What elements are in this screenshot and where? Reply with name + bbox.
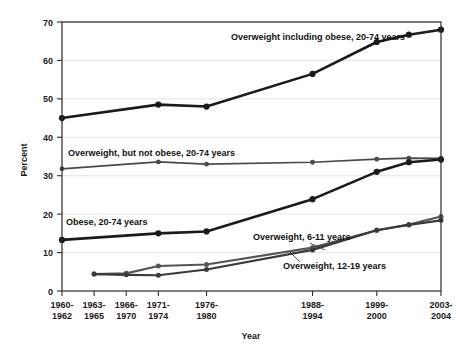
label-overweight-including-obese: Overweight including obese, 20-74 years xyxy=(231,32,405,42)
x-axis-title: Year xyxy=(241,331,261,341)
y-tick-label: 70 xyxy=(43,18,53,28)
data-point xyxy=(204,162,209,167)
chart-container: 1960-19621963-19651966-19701971-19741976… xyxy=(0,0,461,352)
x-tick-label: 1999- xyxy=(365,300,388,310)
data-point xyxy=(92,272,97,277)
x-tick-label: 1974 xyxy=(148,311,168,321)
y-tick-label: 60 xyxy=(43,56,53,66)
x-tick-label: 1966- xyxy=(115,300,138,310)
y-axis-title: Percent xyxy=(19,143,29,176)
data-point xyxy=(204,262,209,267)
data-point xyxy=(204,267,209,272)
x-tick-label: 1976- xyxy=(195,300,218,310)
data-point xyxy=(156,159,161,164)
data-point xyxy=(406,159,412,165)
y-tick-label: 10 xyxy=(43,248,53,258)
y-tick-label: 20 xyxy=(43,210,53,220)
data-point xyxy=(309,196,315,202)
x-tick-label: 2004 xyxy=(431,311,451,321)
line-chart: 1960-19621963-19651966-19701971-19741976… xyxy=(0,0,461,352)
x-tick-label: 1960- xyxy=(50,300,73,310)
data-point xyxy=(155,102,161,108)
x-tick-label: 2000 xyxy=(367,311,387,321)
x-tick-label: 1988- xyxy=(301,300,324,310)
y-tick-label: 0 xyxy=(48,287,53,297)
data-point xyxy=(309,71,315,77)
data-point xyxy=(310,247,315,252)
data-point xyxy=(406,222,411,227)
y-tick-label: 30 xyxy=(43,171,53,181)
x-tick-label: 2003- xyxy=(429,300,452,310)
data-point xyxy=(406,32,412,38)
x-tick-label: 1962 xyxy=(52,311,72,321)
x-tick-label: 1994 xyxy=(303,311,323,321)
data-point xyxy=(156,273,161,278)
label-overweight-6-11: Overweight, 6-11 years xyxy=(253,232,351,242)
x-tick-label: 1963- xyxy=(83,300,106,310)
data-point xyxy=(155,230,161,236)
data-point xyxy=(374,169,380,175)
data-point xyxy=(374,157,379,162)
data-point xyxy=(124,272,129,277)
y-tick-label: 40 xyxy=(43,133,53,143)
data-point xyxy=(203,228,209,234)
x-tick-label: 1971- xyxy=(147,300,170,310)
label-overweight-not-obese: Overweight, but not obese, 20-74 years xyxy=(68,148,235,158)
data-point xyxy=(156,264,161,269)
data-point xyxy=(374,228,379,233)
x-tick-label: 1965 xyxy=(84,311,104,321)
y-tick-label: 50 xyxy=(43,94,53,104)
data-point xyxy=(203,103,209,109)
x-tick-label: 1980 xyxy=(197,311,217,321)
x-tick-label: 1970 xyxy=(116,311,136,321)
label-overweight-12-19: Overweight, 12-19 years xyxy=(283,261,386,271)
label-obese: Obese, 20-74 years xyxy=(66,217,148,227)
data-point xyxy=(310,160,315,165)
